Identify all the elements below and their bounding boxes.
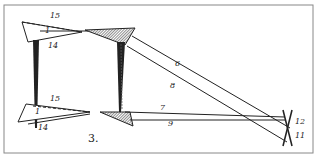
label-12: 12 [295,117,305,126]
label-1-bottom: 1 [35,107,40,116]
beam-7 [125,112,285,117]
label-14-bottom: 14 [38,123,48,132]
label-8: 8 [170,81,175,90]
top-wedge [22,22,82,42]
figure-number: 3. [88,132,99,145]
diagram-figure: 15 1 14 15 1 14 6 8 7 9 12 11 3. [0,0,317,159]
middle-rod [117,42,125,112]
top-hatched-block [85,28,135,45]
label-15-bottom: 15 [50,94,60,103]
beam-8 [127,46,287,142]
bottom-hatched-block [100,112,133,126]
label-6: 6 [175,59,180,68]
bottom-wedge [18,104,90,124]
label-15-top: 15 [50,11,60,20]
label-1-top: 1 [45,26,50,35]
label-14-top: 14 [48,41,58,50]
label-7: 7 [160,103,166,112]
label-11: 11 [295,131,305,140]
label-9: 9 [168,119,173,128]
